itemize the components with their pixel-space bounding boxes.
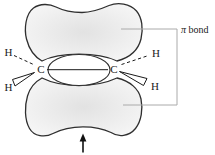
wedge-bond-bottom-left [13, 73, 35, 87]
hydrogen-top-right-label: H [152, 47, 160, 59]
up-arrow-icon [80, 134, 87, 153]
carbon-left-label: C [37, 63, 44, 75]
carbon-right-label: C [110, 63, 117, 75]
pi-bond-diagram: C C H H H H π bond [0, 0, 215, 155]
hydrogen-top-left-label: H [5, 46, 13, 58]
pi-bond-figure: C C H H H H π bond [0, 0, 215, 155]
hydrogen-bottom-right-label: H [151, 80, 159, 92]
top-pi-lobe [25, 4, 142, 61]
pi-bond-label: π bond [181, 24, 209, 35]
dashed-bond-top-left [14, 56, 34, 65]
up-arrow-head [80, 134, 87, 142]
hydrogen-bottom-left-label: H [5, 81, 13, 93]
bottom-pi-lobe [25, 78, 141, 136]
bond-word-text: bond [186, 24, 209, 35]
